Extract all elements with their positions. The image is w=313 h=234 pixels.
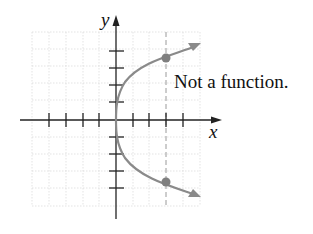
upper-intersection-point — [162, 54, 171, 63]
y-axis-label: y — [99, 9, 110, 30]
y-axis-arrow-icon — [113, 15, 120, 26]
lower-intersection-point — [162, 178, 171, 187]
x-axis-label: x — [208, 121, 218, 142]
graph: x y Not a function. — [0, 0, 313, 234]
curve-arrow-upper-icon — [188, 43, 201, 51]
caption: Not a function. — [174, 71, 289, 92]
